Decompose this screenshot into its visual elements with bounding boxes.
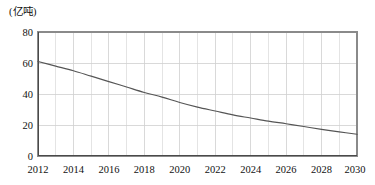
x-tick-label: 2012 (28, 164, 49, 175)
x-tick-label: 2030 (345, 164, 366, 175)
y-axis-tick-labels: 80 60 40 20 0 (23, 27, 34, 162)
x-tick-label: 2022 (205, 164, 226, 175)
x-tick-label: 2020 (169, 164, 190, 175)
x-tick-label: 2018 (134, 164, 155, 175)
y-tick-label: 20 (23, 120, 34, 131)
chart-figure: (亿吨) (0, 0, 375, 185)
x-tick-label: 2028 (311, 164, 332, 175)
x-axis-tick-labels: 2012 2014 2016 2018 2020 2022 2024 2026 … (28, 164, 366, 175)
x-tick-label: 2024 (240, 164, 262, 175)
y-tick-label: 60 (23, 58, 34, 69)
x-tick-label: 2026 (276, 164, 297, 175)
y-tick-label: 0 (28, 151, 33, 162)
y-tick-label: 80 (23, 27, 34, 38)
x-tick-label: 2014 (63, 164, 85, 175)
y-tick-label: 40 (23, 89, 34, 100)
line-chart-plot: 80 60 40 20 0 2012 2014 2016 2018 2020 2… (0, 0, 375, 185)
x-tick-label: 2016 (98, 164, 119, 175)
